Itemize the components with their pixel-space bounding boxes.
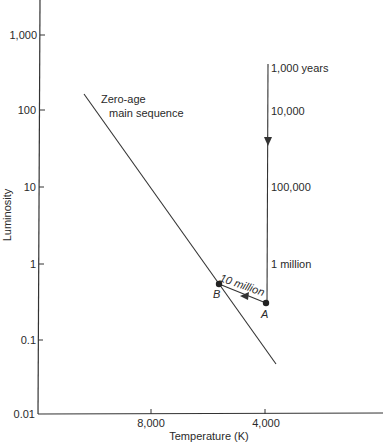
zams-label-line1: Zero-age <box>101 93 146 105</box>
zams-line <box>84 94 276 364</box>
y-axis <box>38 0 40 414</box>
point-a-label: A <box>260 308 268 320</box>
age-label-100000: 100,000 <box>271 181 311 193</box>
x-tick-8000: 8,000 <box>137 417 165 429</box>
point-a <box>263 300 269 306</box>
age-label-10-million: 10 million <box>218 272 266 298</box>
point-b-label: B <box>213 288 220 300</box>
y-tick-0.1: 0.1 <box>21 334 36 346</box>
age-label-1-million: 1 million <box>271 258 311 270</box>
age-label-10000: 10,000 <box>271 105 305 117</box>
arrow-down-icon <box>264 137 272 146</box>
y-tick-labels: 1,000 100 10 1 0.1 0.01 <box>9 29 37 420</box>
y-tick-0.01: 0.01 <box>14 408 35 420</box>
y-tick-100: 100 <box>18 104 36 116</box>
y-axis-title: Luminosity <box>1 188 13 241</box>
hr-diagram-chart: 1,000 100 10 1 0.1 0.01 8,000 4,000 Temp… <box>0 0 385 443</box>
x-axis <box>38 413 383 414</box>
y-tick-1000: 1,000 <box>9 29 37 41</box>
zams-label-line2: main sequence <box>109 107 184 119</box>
y-tick-10: 10 <box>24 181 36 193</box>
x-tick-4000: 4,000 <box>252 417 280 429</box>
track-vertical <box>267 64 268 303</box>
age-label-1000-years: 1,000 years <box>271 62 329 74</box>
y-tick-1: 1 <box>30 258 36 270</box>
x-axis-title: Temperature (K) <box>169 430 248 442</box>
